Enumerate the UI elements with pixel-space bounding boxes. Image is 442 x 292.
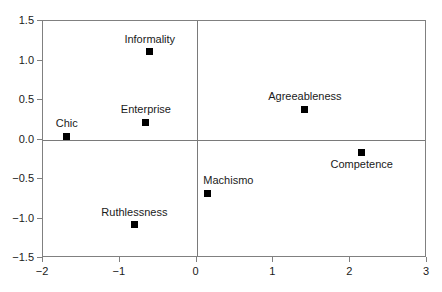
data-point-label: Ruthlessness <box>101 207 167 218</box>
x-axis-tick-label: 2 <box>329 265 369 277</box>
scatter-plot-figure: 1.51.00.50.0−0.5−1.0−1.5 −2−10123 ChicIn… <box>0 0 442 292</box>
data-point-label: Competence <box>331 159 393 170</box>
x-axis-tick-label: −2 <box>22 265 62 277</box>
data-point-marker <box>146 48 153 55</box>
data-point-label: Machismo <box>203 175 253 186</box>
x-axis-tick-label: 0 <box>176 265 216 277</box>
y-axis-tick-label: 1.5 <box>2 14 34 26</box>
data-point-marker <box>358 149 365 156</box>
x-axis-tick <box>42 257 43 262</box>
y-axis-tick-label: −1.5 <box>2 251 34 263</box>
y-axis-tick-label: 1.0 <box>2 54 34 66</box>
data-point-marker <box>131 221 138 228</box>
x-axis-tick <box>349 257 350 262</box>
data-point-label: Enterprise <box>121 104 171 115</box>
x-axis-tick-label: 1 <box>252 265 292 277</box>
y-axis-tick-label: 0.5 <box>2 93 34 105</box>
x-axis-tick <box>272 257 273 262</box>
y-axis-tick-label: −1.0 <box>2 212 34 224</box>
zero-line-vertical <box>197 21 198 256</box>
y-axis-tick-label: 0.0 <box>2 133 34 145</box>
data-point-marker <box>204 190 211 197</box>
y-axis-tick-label: −0.5 <box>2 172 34 184</box>
zero-line-horizontal <box>43 140 425 141</box>
x-axis-tick-label: 3 <box>406 265 442 277</box>
data-point-marker <box>301 106 308 113</box>
x-axis-tick <box>196 257 197 262</box>
plot-area: ChicInformalityEnterpriseAgreeablenessCo… <box>42 20 426 257</box>
data-point-label: Informality <box>124 34 175 45</box>
data-point-marker <box>63 133 70 140</box>
x-axis-tick <box>426 257 427 262</box>
data-point-marker <box>142 119 149 126</box>
data-point-label: Agreeableness <box>268 91 341 102</box>
x-axis-tick <box>119 257 120 262</box>
data-point-label: Chic <box>56 118 78 129</box>
x-axis-tick-label: −1 <box>99 265 139 277</box>
